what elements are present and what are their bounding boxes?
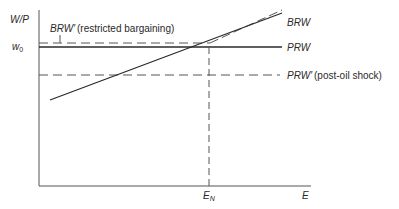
en-tick-label: EN xyxy=(203,190,216,202)
x-axis-label: E xyxy=(302,190,309,201)
y-axis-label: W/P xyxy=(10,14,29,25)
prw-label: PRW xyxy=(287,42,312,53)
brw-label: BRW xyxy=(287,17,312,28)
w0-label: w0 xyxy=(12,41,23,53)
brw-prime-label: BRW′(restricted bargaining) xyxy=(50,23,174,34)
labor-market-diagram: W/P w0 BRW′(restricted bargaining) BRW P… xyxy=(0,0,399,209)
prw-prime-label: PRW′(post-oil shock) xyxy=(287,70,382,81)
